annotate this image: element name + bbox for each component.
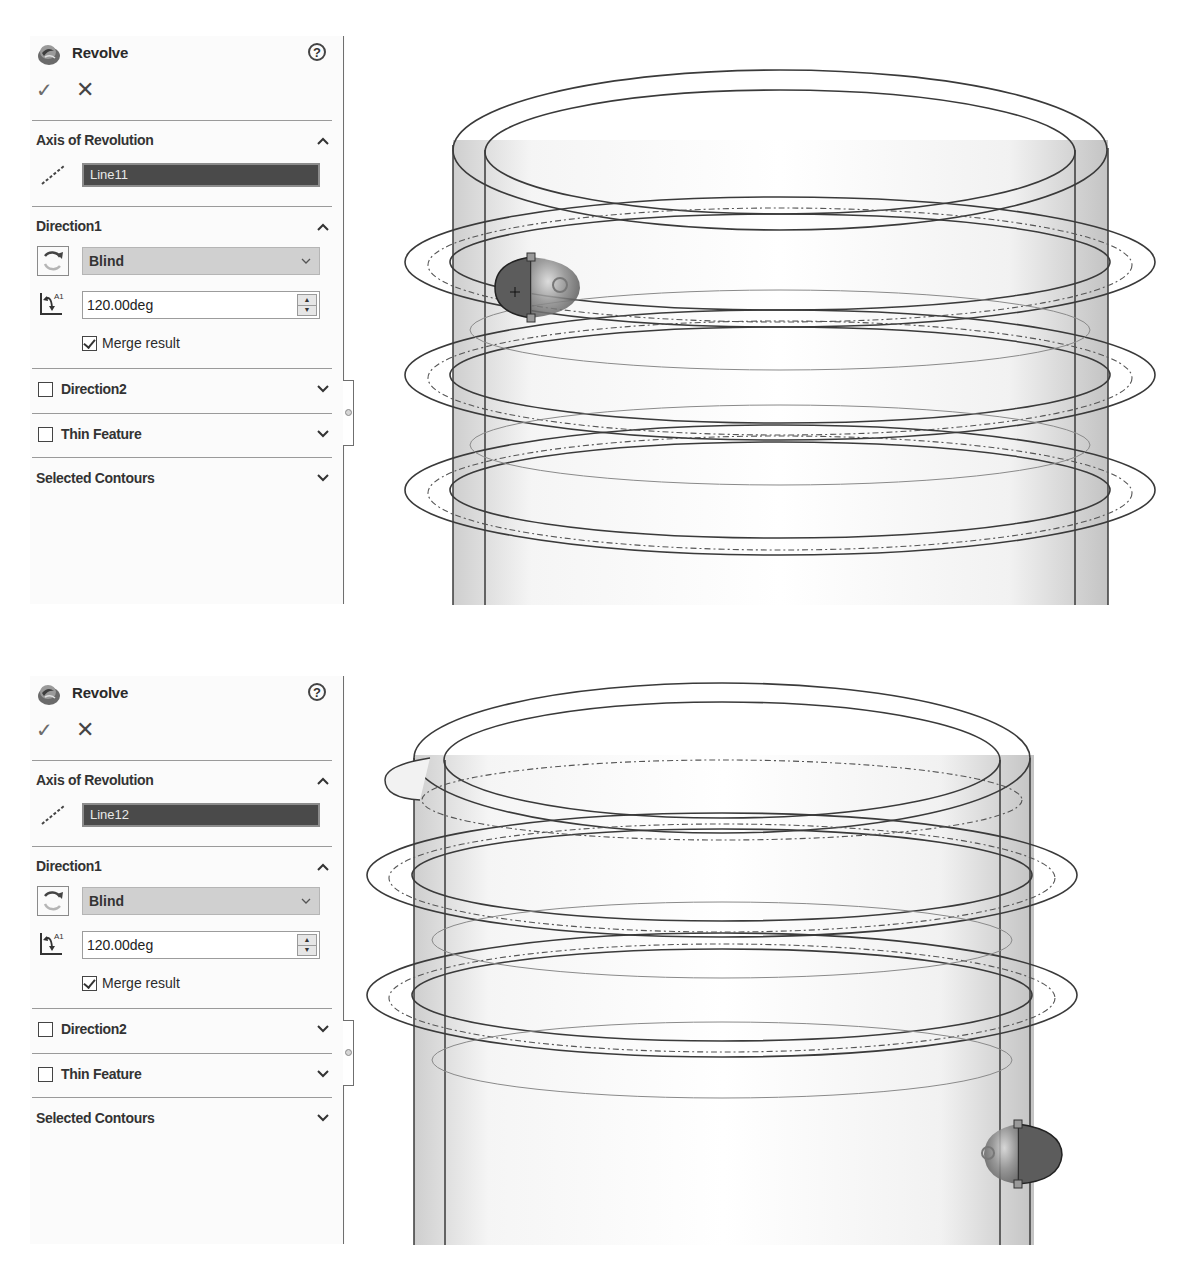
end-condition-value: Blind: [89, 253, 124, 269]
axis-selection-field[interactable]: Line12: [82, 803, 320, 827]
thin-feature-header[interactable]: Thin Feature: [61, 426, 141, 442]
handle-dot-icon: [345, 1049, 352, 1056]
help-icon[interactable]: ?: [308, 683, 326, 701]
angle-icon: A1: [38, 929, 66, 957]
reverse-direction-button[interactable]: [37, 886, 69, 916]
panel-title: Revolve: [72, 684, 128, 701]
chevron-down-icon[interactable]: [316, 384, 330, 394]
selected-contours-header[interactable]: Selected Contours: [36, 470, 155, 486]
divider: [32, 1097, 332, 1098]
ok-checkmark-button[interactable]: ✓: [36, 718, 53, 742]
svg-text:A1: A1: [54, 932, 64, 941]
reverse-direction-button[interactable]: [37, 246, 69, 276]
angle-value: 120.00deg: [87, 937, 153, 953]
ok-checkmark-button[interactable]: ✓: [36, 78, 53, 102]
chevron-up-icon[interactable]: [316, 222, 330, 232]
panel-header: Revolve ?: [36, 42, 326, 68]
property-manager-panel: Revolve ? ✓ ✕ Axis of Revolution Line12 …: [30, 676, 345, 1244]
axis-of-revolution-header[interactable]: Axis of Revolution: [36, 132, 154, 148]
handle-dot-icon: [345, 409, 352, 416]
divider: [32, 206, 332, 207]
direction2-checkbox[interactable]: [38, 1022, 53, 1037]
angle-input[interactable]: 120.00deg ▲ ▼: [82, 931, 320, 959]
thin-feature-checkbox[interactable]: [38, 427, 53, 442]
divider: [32, 413, 332, 414]
axis-of-revolution-header[interactable]: Axis of Revolution: [36, 772, 154, 788]
angle-value: 120.00deg: [87, 297, 153, 313]
end-condition-value: Blind: [89, 893, 124, 909]
axis-selection-field[interactable]: Line11: [82, 163, 320, 187]
chevron-down-icon[interactable]: [316, 1069, 330, 1079]
divider: [32, 368, 332, 369]
merge-result-checkbox[interactable]: [82, 336, 97, 351]
panel-title: Revolve: [72, 44, 128, 61]
panel-border: [343, 676, 344, 1244]
direction2-checkbox[interactable]: [38, 382, 53, 397]
spin-down-icon[interactable]: ▼: [298, 305, 316, 315]
divider: [32, 120, 332, 121]
divider: [32, 1053, 332, 1054]
reverse-direction-icon: [38, 247, 68, 275]
merge-result-label: Merge result: [102, 975, 180, 991]
panel-collapse-handle[interactable]: [343, 1020, 354, 1086]
revolve-screen-1: Revolve ? ✓ ✕ Axis of Revolution Line11 …: [0, 0, 1185, 620]
cancel-x-button[interactable]: ✕: [76, 717, 94, 743]
graphics-viewport[interactable]: [360, 40, 1185, 610]
direction1-header[interactable]: Direction1: [36, 858, 101, 874]
end-condition-dropdown[interactable]: Blind: [82, 887, 320, 915]
angle-spinner[interactable]: ▲ ▼: [297, 294, 317, 316]
help-icon[interactable]: ?: [308, 43, 326, 61]
angle-spinner[interactable]: ▲ ▼: [297, 934, 317, 956]
angle-input[interactable]: 120.00deg ▲ ▼: [82, 291, 320, 319]
chevron-down-icon[interactable]: [316, 429, 330, 439]
direction2-header[interactable]: Direction2: [61, 381, 126, 397]
direction2-header[interactable]: Direction2: [61, 1021, 126, 1037]
property-manager-panel: Revolve ? ✓ ✕ Axis of Revolution Line11 …: [30, 36, 345, 604]
chevron-up-icon[interactable]: [316, 776, 330, 786]
divider: [32, 457, 332, 458]
chevron-down-icon: [301, 898, 311, 904]
reverse-direction-icon: [38, 887, 68, 915]
graphics-viewport[interactable]: [360, 680, 1185, 1250]
chevron-down-icon: [301, 258, 311, 264]
axis-line-icon: [40, 164, 66, 186]
panel-collapse-handle[interactable]: [343, 380, 354, 446]
spin-down-icon[interactable]: ▼: [298, 945, 316, 955]
revolve-feature-icon: [36, 682, 62, 706]
panel-border: [343, 36, 344, 604]
revolve-screen-2: Revolve ? ✓ ✕ Axis of Revolution Line12 …: [0, 640, 1185, 1260]
chevron-up-icon[interactable]: [316, 862, 330, 872]
chevron-down-icon[interactable]: [316, 1113, 330, 1123]
axis-line-icon: [40, 804, 66, 826]
panel-header: Revolve ?: [36, 682, 326, 708]
chevron-down-icon[interactable]: [316, 1024, 330, 1034]
merge-result-checkbox[interactable]: [82, 976, 97, 991]
end-condition-dropdown[interactable]: Blind: [82, 247, 320, 275]
merge-result-label: Merge result: [102, 335, 180, 351]
cancel-x-button[interactable]: ✕: [76, 77, 94, 103]
divider: [32, 1008, 332, 1009]
divider: [32, 846, 332, 847]
thin-feature-header[interactable]: Thin Feature: [61, 1066, 141, 1082]
thin-feature-checkbox[interactable]: [38, 1067, 53, 1082]
svg-text:A1: A1: [54, 292, 64, 301]
chevron-down-icon[interactable]: [316, 473, 330, 483]
selected-contours-header[interactable]: Selected Contours: [36, 1110, 155, 1126]
revolve-feature-icon: [36, 42, 62, 66]
divider: [32, 760, 332, 761]
direction1-header[interactable]: Direction1: [36, 218, 101, 234]
chevron-up-icon[interactable]: [316, 136, 330, 146]
angle-icon: A1: [38, 289, 66, 317]
